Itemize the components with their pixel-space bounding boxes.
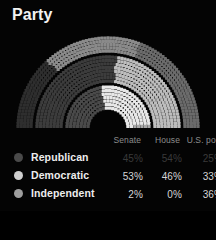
column-header-senate: Senate <box>104 132 143 148</box>
hemicycle-dot <box>117 40 120 43</box>
hemicycle-dot <box>196 122 199 125</box>
hemicycle-dot <box>134 47 137 50</box>
hemicycle-dot <box>111 89 114 92</box>
hemicycle-dot <box>99 70 102 73</box>
hemicycle-dot <box>96 90 99 93</box>
hemicycle-dot <box>18 109 21 112</box>
hemicycle-dot <box>126 122 129 125</box>
hemicycle-dot <box>99 86 102 89</box>
hemicycle-dot <box>117 70 120 73</box>
hemicycle-dot <box>138 46 141 49</box>
hemicycle-dot <box>56 125 59 128</box>
hemicycle-dot <box>184 106 187 109</box>
hemicycle-dot <box>87 84 90 87</box>
hemicycle-dot <box>75 46 78 49</box>
hemicycle-dot <box>149 107 152 110</box>
hemicycle-dot <box>24 100 27 103</box>
hemicycle-dot <box>78 116 81 119</box>
hemicycle-dot <box>102 86 105 89</box>
hemicycle-dot <box>111 103 114 106</box>
hemicycle-dot <box>122 75 125 78</box>
hemicycle-dot <box>122 44 125 47</box>
hemicycle-dot <box>38 106 41 109</box>
hemicycle-dot <box>91 64 94 67</box>
hemicycle-dot <box>99 80 102 83</box>
hemicycle-dot <box>114 66 117 69</box>
hemicycle-dot <box>37 113 40 116</box>
hemicycle-dot <box>193 103 196 106</box>
hemicycle-dot <box>77 119 80 122</box>
hemicycle-dot <box>103 73 106 76</box>
hemicycle-dot <box>53 119 56 122</box>
hemicycle-dot <box>73 119 76 122</box>
hemicycle-dot <box>133 125 136 128</box>
hemicycle-dot <box>46 119 49 122</box>
hemicycle-dot <box>158 113 161 116</box>
hemicycle-dot <box>99 93 102 96</box>
hemicycle-dot <box>191 94 194 97</box>
hemicycle-dot <box>190 103 193 106</box>
hemicycle-dot <box>57 116 60 119</box>
hemicycle-dot <box>76 122 79 125</box>
hemicycle-dot <box>157 107 160 110</box>
hemicycle-dot <box>106 76 109 79</box>
table-header-row: Senate House U.S. pop. <box>0 132 216 148</box>
hemicycle-dot <box>159 116 162 119</box>
hemicycle-dot <box>119 63 122 66</box>
us-pop-value: 25% <box>203 153 216 164</box>
hemicycle-dot <box>57 119 60 122</box>
hemicycle-dot <box>28 109 31 112</box>
hemicycle-dot <box>190 125 193 128</box>
hemicycle-dot <box>50 116 53 119</box>
party-label-cell[interactable]: Independent <box>0 184 104 202</box>
table-row[interactable]: Democratic 53% 46% 33% <box>0 166 216 184</box>
hemicycle-dot <box>103 76 106 79</box>
hemicycle-dot <box>60 119 63 122</box>
hemicycle-dot <box>30 119 33 122</box>
hemicycle-dot <box>139 116 142 119</box>
hemicycle-dot <box>117 50 120 53</box>
hemicycle-dot <box>102 69 105 72</box>
hemicycle-dot <box>123 51 126 54</box>
hemicycle-dot <box>31 109 34 112</box>
hemicycle-dot <box>49 107 52 110</box>
house-value-cell: 0% <box>143 184 182 202</box>
hemicycle-dot <box>96 105 99 108</box>
hemicycle-dot <box>108 66 111 69</box>
hemicycle-dot <box>152 116 155 119</box>
table-row[interactable]: Republican 45% 54% 25% <box>0 148 216 166</box>
hemicycle-dot <box>170 103 173 106</box>
hemicycle-dot <box>163 119 166 122</box>
hemicycle-dot <box>140 125 143 128</box>
hemicycle-dot <box>97 77 100 80</box>
hemicycle-dot <box>183 116 186 119</box>
hemicycle-dot <box>100 43 103 46</box>
hemicycle-dot <box>166 116 169 119</box>
hemicycle-dot <box>160 122 163 125</box>
hemicycle-dot <box>174 104 177 107</box>
hemicycle-dot <box>123 41 126 44</box>
hemicycle-dot <box>177 95 180 98</box>
hemicycle-dot <box>188 109 191 112</box>
hemicycle-dot <box>43 116 46 119</box>
party-label-cell[interactable]: Republican <box>0 148 104 166</box>
hemicycle-dot <box>125 65 128 68</box>
hemicycle-dot <box>112 96 115 99</box>
party-label-cell[interactable]: Democratic <box>0 166 104 184</box>
hemicycle-dot <box>53 107 56 110</box>
hemicycle-dot <box>126 42 129 45</box>
table-head: Senate House U.S. pop. <box>0 132 216 148</box>
hemicycle-dot <box>119 47 122 50</box>
hemicycle-dot <box>119 74 122 77</box>
hemicycle-dot <box>78 55 81 58</box>
hemicycle-dot <box>120 88 123 91</box>
hemicycle-dot <box>122 48 125 51</box>
hemicycle-dot <box>73 122 76 125</box>
hemicycle-dot <box>86 125 89 128</box>
hemicycle-dot <box>47 116 50 119</box>
table-row[interactable]: Independent 2% 0% 36% <box>0 184 216 202</box>
senate-value-cell: 45% <box>104 148 143 166</box>
hemicycle-dot <box>117 87 120 90</box>
hemicycle-dot <box>85 66 88 69</box>
hemicycle-dot <box>26 95 29 98</box>
